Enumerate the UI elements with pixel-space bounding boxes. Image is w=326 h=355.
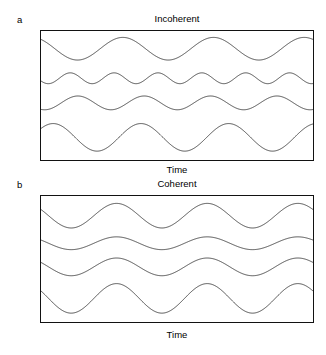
x-axis-label-incoherent: Time	[40, 165, 314, 175]
waveform-2	[41, 73, 313, 84]
panel-letter-a: a	[17, 15, 22, 25]
waveform-4	[41, 124, 313, 152]
panel-letter-b: b	[17, 180, 22, 190]
waveform-group-incoherent	[41, 31, 313, 160]
x-axis-label-coherent: Time	[40, 330, 314, 340]
panel-title-coherent: Coherent	[40, 179, 314, 189]
plot-area-incoherent	[40, 30, 314, 161]
plot-area-coherent	[40, 195, 314, 323]
waveform-group-coherent	[41, 196, 313, 322]
wave-coherence-figure: a Incoherent Time b Coherent Time	[0, 0, 326, 355]
waveform-1	[41, 37, 313, 60]
waveform-4	[41, 284, 313, 314]
waveform-3	[41, 258, 313, 276]
waveform-2	[41, 237, 313, 250]
waveform-1	[41, 203, 313, 228]
panel-title-incoherent: Incoherent	[40, 14, 314, 24]
waveform-3	[41, 96, 313, 110]
